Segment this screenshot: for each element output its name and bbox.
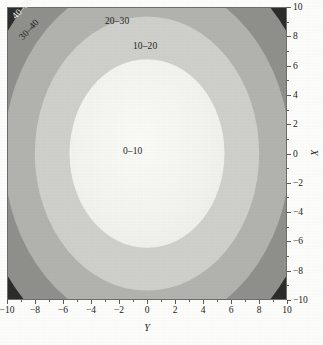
x-tick-mark <box>175 300 176 304</box>
y-tick-minor <box>287 139 289 140</box>
y-tick-label: −6 <box>293 236 303 246</box>
y-tick-mark <box>287 300 291 301</box>
x-tick-mark <box>147 300 148 304</box>
y-tick-mark <box>287 7 291 8</box>
x-tick-minor <box>105 300 106 302</box>
x-tick-minor <box>245 300 246 302</box>
y-tick-label: −8 <box>293 266 303 276</box>
x-tick-mark <box>119 300 120 304</box>
x-tick-mark <box>7 300 8 304</box>
y-tick-label: −10 <box>293 295 308 305</box>
y-axis-title: X <box>309 150 320 156</box>
x-tick-minor <box>133 300 134 302</box>
x-tick-label: −8 <box>30 305 40 315</box>
y-tick-label: 6 <box>293 61 298 71</box>
x-tick-label: 2 <box>173 305 178 315</box>
x-tick-minor <box>189 300 190 302</box>
y-tick-label: 2 <box>293 119 298 129</box>
x-tick-minor <box>217 300 218 302</box>
y-tick-minor <box>287 168 289 169</box>
y-tick-minor <box>287 197 289 198</box>
y-tick-minor <box>287 110 289 111</box>
y-tick-mark <box>287 36 291 37</box>
y-tick-mark <box>287 212 291 213</box>
y-tick-label: −4 <box>293 207 303 217</box>
x-tick-label: 6 <box>229 305 234 315</box>
y-tick-minor <box>287 256 289 257</box>
x-tick-label: −6 <box>58 305 68 315</box>
x-tick-mark <box>259 300 260 304</box>
y-tick-mark <box>287 154 291 155</box>
y-tick-minor <box>287 51 289 52</box>
x-tick-label: 4 <box>201 305 206 315</box>
x-tick-minor <box>49 300 50 302</box>
y-tick-mark <box>287 95 291 96</box>
y-tick-mark <box>287 241 291 242</box>
x-tick-mark <box>231 300 232 304</box>
x-tick-mark <box>91 300 92 304</box>
x-tick-minor <box>77 300 78 302</box>
contour-plot-figure: 0–10 10–20 20–30 30–40 40–50 Y X −10−8−6… <box>0 0 323 345</box>
x-tick-mark <box>35 300 36 304</box>
band-label-10-20: 10–20 <box>133 41 157 51</box>
x-tick-minor <box>21 300 22 302</box>
y-tick-label: 4 <box>293 90 298 100</box>
x-tick-label: 10 <box>282 305 292 315</box>
y-tick-label: −2 <box>293 178 303 188</box>
y-tick-minor <box>287 285 289 286</box>
x-axis-title: Y <box>144 322 150 333</box>
x-tick-label: 0 <box>145 305 150 315</box>
y-tick-mark <box>287 124 291 125</box>
y-tick-mark <box>287 183 291 184</box>
y-tick-minor <box>287 22 289 23</box>
x-tick-label: −2 <box>114 305 124 315</box>
x-tick-minor <box>273 300 274 302</box>
y-tick-label: 10 <box>293 2 303 12</box>
band-label-20-30: 20–30 <box>105 16 129 26</box>
x-tick-minor <box>161 300 162 302</box>
y-tick-label: 0 <box>293 149 298 159</box>
y-tick-minor <box>287 80 289 81</box>
x-tick-label: −4 <box>86 305 96 315</box>
band-0-10 <box>70 59 225 248</box>
y-tick-mark <box>287 271 291 272</box>
x-tick-mark <box>63 300 64 304</box>
x-tick-label: −10 <box>0 305 14 315</box>
y-tick-minor <box>287 227 289 228</box>
band-label-0-10: 0–10 <box>123 146 142 156</box>
y-tick-mark <box>287 66 291 67</box>
x-tick-mark <box>203 300 204 304</box>
y-tick-label: 8 <box>293 31 298 41</box>
contour-bands <box>8 8 286 299</box>
x-tick-label: 8 <box>257 305 262 315</box>
